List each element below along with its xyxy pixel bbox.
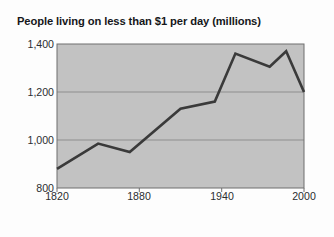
ytick-label-1000: 1,000 bbox=[8, 134, 54, 146]
ytick-label-1400: 1,400 bbox=[8, 38, 54, 50]
xtick-label-2000: 2000 bbox=[277, 190, 331, 202]
xtick-label-1940: 1940 bbox=[195, 190, 249, 202]
ytick-label-1200: 1,200 bbox=[8, 86, 54, 98]
xtick-label-1880: 1880 bbox=[112, 190, 166, 202]
chart-figure: People living on less than $1 per day (m… bbox=[0, 0, 334, 237]
plot-area: 1,400 1,200 1,000 800 1820 1880 1940 200… bbox=[0, 0, 334, 237]
xtick-label-1820: 1820 bbox=[30, 190, 84, 202]
